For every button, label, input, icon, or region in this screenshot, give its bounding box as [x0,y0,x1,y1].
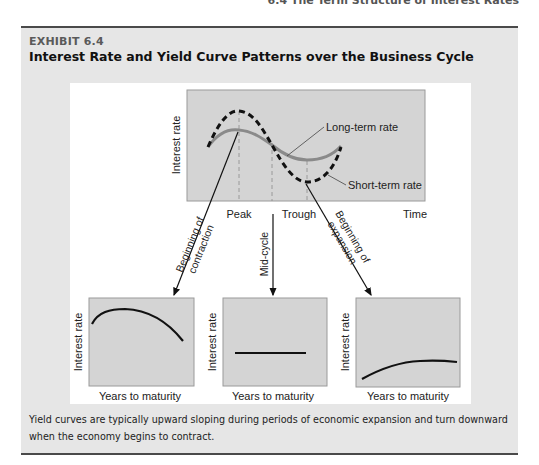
exhibit-box: EXHIBIT 6.4 Interest Rate and Yield Curv… [21,26,518,455]
top-y-axis-label: Interest rate [170,116,182,175]
interest-rate-cycle-chart: Long-term rate Short-term rate Interest … [170,90,427,220]
long-term-rate-label: Long-term rate [326,121,398,133]
midcycle-arrow-label: Mid-cycle [258,232,270,276]
short-term-rate-label: Short-term rate [348,179,422,191]
exhibit-title: Interest Rate and Yield Curve Patterns o… [29,49,474,64]
yield-y-label-3: Interest rate [339,313,351,372]
expansion-arrow-label: Beginning of expansion [323,208,373,271]
yield-curve-normal: Interest rate Years to maturity [339,298,460,402]
yield-y-label-1: Interest rate [72,313,84,372]
yield-plot-area-2 [223,298,327,386]
business-cycle-diagram: Long-term rate Short-term rate Interest … [70,83,471,404]
yield-x-label-2: Years to maturity [232,390,315,402]
yield-x-label-1: Years to maturity [99,390,182,402]
diagram-panel: Long-term rate Short-term rate Interest … [70,83,471,404]
yield-y-label-2: Interest rate [206,313,218,372]
x-tick-peak: Peak [226,208,252,220]
exhibit-caption: Yield curves are typically upward slopin… [29,411,509,445]
contraction-arrow-label: Beginning of contraction [173,215,217,278]
running-head: 6.4 The Term Structure of Interest Rates [268,0,519,7]
yield-curve-inverted: Interest rate Years to maturity [72,298,194,402]
x-tick-trough: Trough [282,208,316,220]
x-axis-time-label: Time [403,208,427,220]
yield-curve-flat: Interest rate Years to maturity [206,298,327,402]
exhibit-label: EXHIBIT 6.4 [29,35,104,48]
yield-x-label-3: Years to maturity [367,390,450,402]
